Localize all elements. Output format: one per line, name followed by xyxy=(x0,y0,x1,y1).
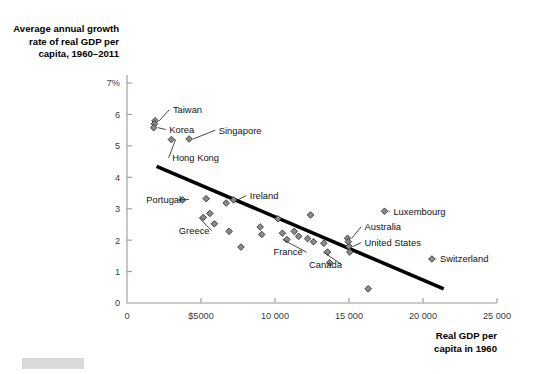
x-tick-label: 15 000 xyxy=(335,311,363,321)
point-label-greece: Greece xyxy=(179,225,210,236)
y-tick-label: 7% xyxy=(107,78,120,88)
point-label-switzerland: Switzerland xyxy=(440,253,488,264)
leader-line-korea xyxy=(158,128,166,130)
y-tick-label: 6 xyxy=(115,110,120,120)
y-axis-title-line: capita, 1960–2011 xyxy=(38,48,119,59)
x-tick-label: 25 000 xyxy=(483,311,511,321)
x-axis-title-line: capita in 1960 xyxy=(434,343,497,354)
point-label-hong-kong: Hong Kong xyxy=(172,152,219,163)
y-axis-title-line: Average annual growth xyxy=(13,23,119,34)
data-point xyxy=(279,230,286,237)
scatter-plot-canvas: 01234567%0$500010 00015 00020 00025 000T… xyxy=(0,0,541,374)
leader-line-australia xyxy=(352,227,361,238)
x-tick-label: 0 xyxy=(124,311,129,321)
point-label-canada: Canada xyxy=(309,259,343,270)
data-point xyxy=(321,240,328,247)
point-label-united-states: United States xyxy=(365,237,422,248)
data-point-switzerland xyxy=(429,256,436,263)
data-point xyxy=(304,235,311,242)
y-tick-label: 2 xyxy=(115,236,120,246)
data-point-hong-kong xyxy=(168,136,175,143)
point-label-korea: Korea xyxy=(169,124,195,135)
data-point-luxembourg xyxy=(381,208,388,215)
data-point xyxy=(257,224,264,231)
data-point xyxy=(310,238,317,245)
data-point xyxy=(223,200,230,207)
data-point xyxy=(307,212,314,219)
data-point xyxy=(365,286,372,293)
leader-line-ireland xyxy=(238,196,247,200)
y-tick-label: 3 xyxy=(115,204,120,214)
leader-line-taiwan xyxy=(159,110,169,121)
leader-line-united-states xyxy=(353,243,361,247)
point-label-portugal: Portugal xyxy=(146,194,181,205)
leader-line-portugal xyxy=(178,199,189,200)
x-axis-title-line: Real GDP per xyxy=(436,330,497,341)
data-point xyxy=(211,221,218,228)
point-label-taiwan: Taiwan xyxy=(173,104,202,115)
data-point xyxy=(258,231,265,238)
leader-line-singapore xyxy=(193,130,215,139)
y-tick-label: 0 xyxy=(115,298,120,308)
chart-figure: 01234567%0$500010 00015 00020 00025 000T… xyxy=(0,0,541,374)
data-point xyxy=(207,210,214,217)
data-point xyxy=(238,244,245,251)
page-footer-chip xyxy=(22,358,84,369)
x-tick-label: 20 000 xyxy=(409,311,437,321)
point-label-singapore: Singapore xyxy=(219,125,262,136)
y-axis-title-line: rate of real GDP per xyxy=(29,36,119,47)
point-label-ireland: Ireland xyxy=(250,190,279,201)
y-tick-label: 5 xyxy=(115,141,120,151)
x-tick-label: 10 000 xyxy=(261,311,289,321)
data-point xyxy=(226,228,233,235)
point-label-australia: Australia xyxy=(365,221,402,232)
x-tick-label: $5000 xyxy=(188,311,214,321)
point-label-luxembourg: Luxembourg xyxy=(393,206,445,217)
data-point xyxy=(203,195,210,202)
data-point xyxy=(295,233,302,240)
data-point xyxy=(291,228,298,235)
y-tick-label: 4 xyxy=(115,173,120,183)
y-tick-label: 1 xyxy=(115,267,120,277)
data-point-singapore xyxy=(186,136,193,143)
